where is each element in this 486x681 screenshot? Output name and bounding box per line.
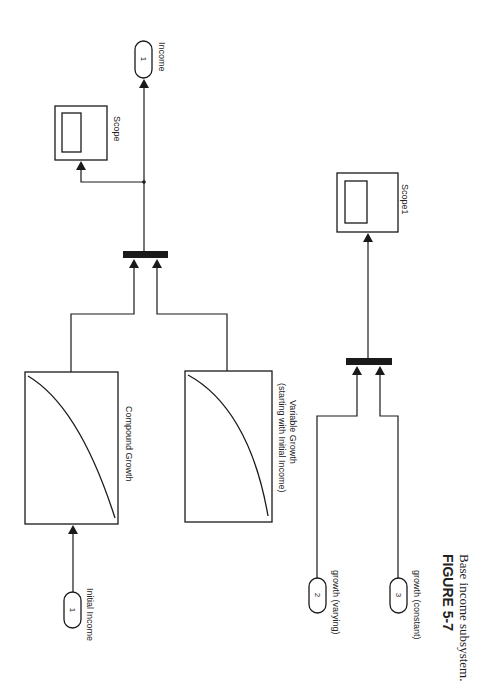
variable-growth-label-line2: (starting with Initial Income) bbox=[276, 383, 287, 493]
signal-line-growth-constant bbox=[375, 366, 398, 578]
inport-growth-varying-label: growth (varying) bbox=[330, 570, 341, 635]
figure-number: FIGURE 5-7 bbox=[440, 554, 456, 631]
signal-line-mux-to-scope1 bbox=[363, 233, 373, 358]
scope-label: Scope bbox=[111, 116, 122, 142]
inport-growth-constant-number: 3 bbox=[393, 588, 403, 602]
outport-income-label: Income bbox=[156, 42, 167, 72]
variable-growth-label-line1: Variable Growth bbox=[287, 400, 298, 464]
signal-line-income bbox=[139, 79, 149, 251]
signal-line-initial-income bbox=[68, 525, 78, 592]
mux-growth-block[interactable] bbox=[346, 358, 392, 365]
signal-line-compound-to-mux bbox=[71, 259, 139, 372]
outport-income-number: 1 bbox=[138, 52, 148, 66]
figure-caption: Base income subsystem. bbox=[456, 554, 472, 681]
compound-growth-label: Compound Growth bbox=[123, 406, 134, 482]
scope1-block[interactable] bbox=[337, 173, 398, 232]
inport-initial-income-number: 1 bbox=[67, 603, 77, 617]
mux-income-block[interactable] bbox=[123, 251, 168, 258]
scope1-label: Scope1 bbox=[399, 184, 410, 215]
signal-line-growth-varying bbox=[317, 366, 362, 578]
inport-growth-constant-label: growth (constant) bbox=[411, 570, 422, 640]
compound-growth-block[interactable] bbox=[25, 372, 118, 524]
inport-growth-varying-number: 2 bbox=[312, 588, 322, 602]
inport-initial-income-label: Initial Income bbox=[84, 588, 95, 641]
scope-block[interactable] bbox=[55, 106, 107, 160]
variable-growth-block[interactable] bbox=[185, 371, 272, 522]
signal-branch-scope bbox=[76, 161, 146, 184]
signal-line-variable-to-mux bbox=[152, 259, 227, 371]
